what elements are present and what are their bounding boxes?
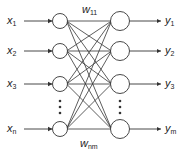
input-node-2 (53, 44, 68, 59)
output-node-2 (111, 42, 130, 61)
output-labels: y1y2y3ym (164, 14, 177, 135)
output-node-m (111, 120, 130, 139)
weight-connections (67, 21, 112, 129)
input-arrows (24, 21, 53, 129)
output-node-1 (111, 12, 130, 31)
input-node-1 (53, 14, 68, 29)
neural-network-diagram: w11 wnm x1x2x3xn y1y2y3ym (0, 0, 186, 152)
output-ellipsis (119, 100, 122, 115)
weight-label-wnm: wnm (80, 137, 98, 150)
input-node-3 (53, 77, 68, 92)
input-node-n (53, 122, 68, 137)
input-label-1: x1 (6, 14, 17, 27)
input-ellipsis (59, 100, 62, 115)
output-layer (111, 12, 130, 139)
output-label-3: y3 (164, 77, 175, 90)
weight-label-w11: w11 (82, 3, 97, 16)
output-arrows (130, 21, 162, 129)
output-label-m: ym (164, 122, 177, 135)
input-label-2: x2 (6, 44, 17, 57)
input-label-n: xn (6, 122, 17, 135)
output-label-2: y2 (164, 44, 175, 57)
output-label-1: y1 (164, 14, 175, 27)
output-node-3 (111, 75, 130, 94)
input-labels: x1x2x3xn (6, 14, 17, 135)
input-label-3: x3 (6, 77, 17, 90)
input-layer (53, 14, 68, 137)
